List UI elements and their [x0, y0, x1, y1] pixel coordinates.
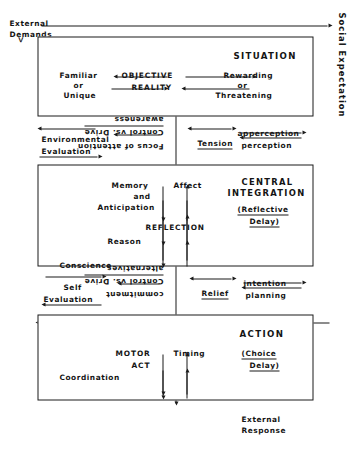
external-demands-pointer: > — [14, 36, 23, 43]
connector1-tension-line — [189, 128, 231, 129]
action-subheading-line2: Delay) — [249, 360, 279, 371]
connector2-self-eval-line2: Evaluation — [43, 294, 93, 303]
action-item-motor-line1: MOTOR — [115, 348, 150, 357]
connector2-relief-arrowhead-down — [189, 276, 193, 280]
situation-arrow-up-2 — [111, 88, 163, 89]
situation-arrow-up-1 — [185, 76, 251, 77]
connector2-intention-line — [243, 282, 301, 283]
action-arrow-coord-in — [186, 372, 187, 394]
figure-canvas: Social Expectation Individual Expectatio… — [0, 0, 359, 472]
external-response-label-line1: External — [241, 414, 280, 423]
connector1-apperception-line — [241, 132, 301, 133]
central-integration-subheading-line2: Delay) — [249, 216, 279, 227]
social-expectation-arrowhead — [328, 23, 332, 27]
connector2-control-arrowhead — [117, 281, 121, 285]
connector1-env-eval-line-right — [39, 156, 97, 157]
connector1-tension-arrowhead-down — [187, 126, 191, 130]
social-expectation-axis-line — [41, 25, 327, 26]
action-arrow-coord-out — [162, 370, 163, 392]
connector1-env-eval-line-left — [39, 128, 95, 129]
connector2-relief-arrowhead-up — [232, 276, 236, 280]
connector2-relief-line — [191, 278, 231, 279]
action-heading: ACTION — [239, 328, 284, 338]
social-expectation-label: Social Expectation — [336, 12, 345, 117]
connector2-self-eval-line-left — [45, 276, 101, 277]
connector1-awareness-label: awareness — [114, 114, 163, 123]
situation-arrowhead-up-1 — [252, 74, 256, 78]
connector2-self-eval-arrowhead-down — [41, 302, 45, 306]
central-item-memory-line2: and — [133, 191, 150, 200]
central-conscience-arrow-out — [162, 200, 163, 260]
action-item-motor-line2: ACT — [131, 360, 150, 369]
connector1-control-arrowhead — [113, 132, 117, 136]
connector1-environmental-eval-line2: Evaluation — [41, 146, 91, 155]
action-arrowhead-in-1 — [185, 352, 189, 356]
connector2-self-eval-line-right — [43, 304, 101, 305]
situation-arrowhead-up-2 — [164, 86, 168, 90]
central-integration-heading-line2: INTEGRATION — [227, 187, 305, 197]
situation-arrow-down-1 — [183, 88, 249, 89]
connector1-tension-arrowhead-up — [232, 126, 236, 130]
action-item-coordination: Coordination — [59, 372, 119, 381]
action-arrowhead-coord-in — [185, 368, 189, 372]
connector2-commitment-label: commitment — [105, 289, 163, 298]
central-item-conscience: Conscience — [59, 260, 111, 269]
connector2-alternatives-label: alternatives — [106, 263, 163, 272]
situation-arrow-down-2 — [115, 76, 167, 77]
central-item-reason: Reason — [107, 236, 141, 245]
connector2-planning-arrowhead — [241, 285, 245, 289]
action-arrowhead-coord-out — [161, 391, 165, 395]
central-item-memory-line3: Anticipation — [97, 202, 154, 211]
central-integration-subheading-line1: (Reflective — [237, 204, 288, 215]
connector2-planning-line — [243, 287, 301, 288]
connector1-control-line — [115, 134, 159, 135]
external-response-label-line2: Response — [241, 425, 286, 434]
central-conscience-arrow-in — [186, 200, 187, 260]
connector2-control-line — [119, 283, 159, 284]
connector1-tension-label: Tension — [197, 138, 232, 149]
situation-heading: SITUATION — [233, 50, 296, 60]
situation-arrowhead-down-1 — [181, 86, 185, 90]
figure-rotated-content: Social Expectation Individual Expectatio… — [0, 0, 359, 472]
connector1-perception-label: perception — [241, 140, 292, 149]
central-item-reflection: REFLECTION — [145, 222, 204, 231]
central-arrowhead-a1 — [185, 184, 189, 188]
situation-item-familiar-line2: or — [73, 80, 83, 89]
central-item-memory-line1: Memory — [111, 180, 148, 189]
connector1-env-eval-arrowhead-down — [37, 126, 41, 130]
situation-arrowhead-down-2 — [113, 74, 117, 78]
central-integration-heading-line1: CENTRAL — [241, 176, 293, 186]
situation-item-rewarding-line3: Threatening — [215, 90, 272, 99]
action-arrowhead-out-1 — [161, 395, 165, 399]
connector1-perception-arrowhead — [239, 135, 243, 139]
connector2-planning-label: planning — [245, 290, 286, 299]
connector1-environmental-eval-line1: Environmental — [41, 134, 109, 143]
situation-item-familiar-line3: Unique — [63, 90, 96, 99]
action-subheading-line1: (Choice — [241, 348, 276, 359]
connector2-intention-arrowhead — [302, 280, 306, 284]
external-demands-label-line1: External — [9, 18, 48, 27]
connector2-self-eval-arrowhead-up — [102, 274, 106, 278]
situation-item-familiar-line1: Familiar — [59, 70, 97, 79]
connector2-self-eval-line1: Self — [63, 282, 81, 291]
connector1-env-eval-arrowhead-up — [98, 154, 102, 158]
connector1-perception-line — [241, 137, 301, 138]
main-flow-arrowhead — [174, 401, 178, 405]
connector2-relief-label: Relief — [201, 288, 228, 299]
connector1-apperception-arrowhead — [302, 130, 306, 134]
